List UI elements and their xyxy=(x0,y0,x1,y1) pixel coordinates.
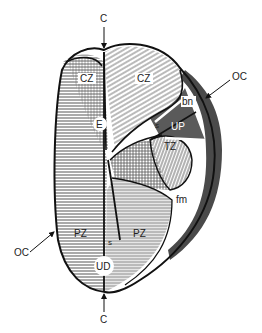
label-e: E xyxy=(96,119,103,130)
label-bn: bn xyxy=(182,96,193,107)
label-cz-right: CZ xyxy=(137,73,150,84)
label-fm: fm xyxy=(176,194,187,205)
arrow-oc-left xyxy=(30,232,54,252)
label-s-upper: s xyxy=(155,121,159,130)
label-cz-left: CZ xyxy=(80,73,93,84)
label-c-bottom: C xyxy=(100,314,107,325)
arrow-oc-right xyxy=(206,80,230,98)
label-tz: TZ xyxy=(164,141,176,152)
label-ud: UD xyxy=(96,261,110,272)
zonal-anatomy-diagram: C C OC OC CZ CZ E bn UP s TZ fm PZ PZ s … xyxy=(0,0,262,333)
label-up: UP xyxy=(171,121,185,132)
label-s-lower: s xyxy=(108,238,112,247)
label-oc-right: OC xyxy=(232,71,247,82)
label-c-top: C xyxy=(100,13,107,24)
label-pz-left: PZ xyxy=(74,228,87,239)
label-pz-right: PZ xyxy=(133,228,146,239)
label-oc-left: OC xyxy=(14,247,29,258)
